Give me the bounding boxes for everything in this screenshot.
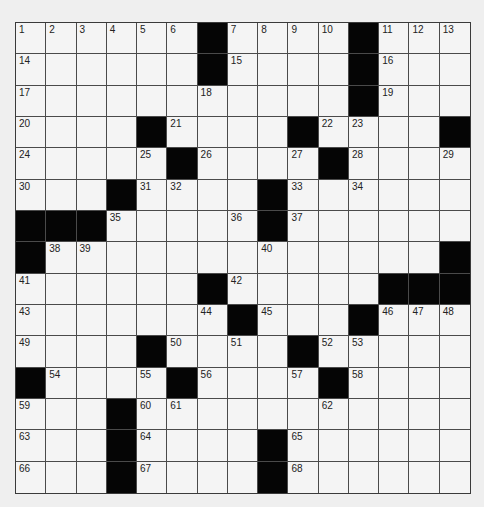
grid-cell[interactable]: 26 [198,148,228,179]
grid-cell[interactable]: 45 [258,305,288,336]
grid-cell[interactable] [198,399,228,430]
grid-cell[interactable] [77,54,107,85]
grid-cell[interactable]: 5 [137,23,167,54]
grid-cell[interactable] [107,117,137,148]
grid-cell[interactable]: 13 [440,23,470,54]
grid-cell[interactable] [137,242,167,273]
grid-cell[interactable] [319,54,349,85]
grid-cell[interactable] [228,399,258,430]
grid-cell[interactable] [198,430,228,461]
grid-cell[interactable] [107,368,137,399]
grid-cell[interactable] [258,86,288,117]
grid-cell[interactable]: 50 [167,336,197,367]
grid-cell[interactable]: 23 [349,117,379,148]
grid-cell[interactable]: 27 [288,148,318,179]
grid-cell[interactable]: 16 [379,54,409,85]
grid-cell[interactable] [440,86,470,117]
grid-cell[interactable] [167,211,197,242]
grid-cell[interactable] [46,54,76,85]
grid-cell[interactable]: 64 [137,430,167,461]
grid-cell[interactable]: 18 [198,86,228,117]
grid-cell[interactable] [409,86,439,117]
grid-cell[interactable] [46,399,76,430]
grid-cell[interactable] [440,368,470,399]
grid-cell[interactable]: 55 [137,368,167,399]
grid-cell[interactable] [409,117,439,148]
grid-cell[interactable] [288,305,318,336]
grid-cell[interactable]: 25 [137,148,167,179]
grid-cell[interactable] [107,242,137,273]
grid-cell[interactable] [46,180,76,211]
grid-cell[interactable] [167,54,197,85]
grid-cell[interactable] [379,180,409,211]
grid-cell[interactable] [288,274,318,305]
grid-cell[interactable] [288,399,318,430]
grid-cell[interactable]: 58 [349,368,379,399]
grid-cell[interactable] [258,368,288,399]
grid-cell[interactable] [137,211,167,242]
grid-cell[interactable]: 21 [167,117,197,148]
grid-cell[interactable] [107,86,137,117]
grid-cell[interactable] [77,274,107,305]
grid-cell[interactable] [167,462,197,493]
grid-cell[interactable]: 46 [379,305,409,336]
grid-cell[interactable] [107,148,137,179]
grid-cell[interactable] [440,211,470,242]
grid-cell[interactable] [349,242,379,273]
grid-cell[interactable] [288,86,318,117]
grid-cell[interactable]: 2 [46,23,76,54]
grid-cell[interactable]: 28 [349,148,379,179]
grid-cell[interactable]: 6 [167,23,197,54]
grid-cell[interactable] [379,399,409,430]
grid-cell[interactable] [77,305,107,336]
grid-cell[interactable] [167,305,197,336]
grid-cell[interactable] [46,336,76,367]
grid-cell[interactable] [319,180,349,211]
grid-cell[interactable] [379,211,409,242]
grid-cell[interactable] [379,430,409,461]
grid-cell[interactable]: 31 [137,180,167,211]
grid-cell[interactable] [440,180,470,211]
grid-cell[interactable] [409,462,439,493]
grid-cell[interactable] [107,336,137,367]
grid-cell[interactable] [77,148,107,179]
grid-cell[interactable] [349,462,379,493]
grid-cell[interactable]: 3 [77,23,107,54]
grid-cell[interactable] [77,462,107,493]
grid-cell[interactable] [137,86,167,117]
grid-cell[interactable] [228,180,258,211]
grid-cell[interactable] [258,399,288,430]
grid-cell[interactable] [167,242,197,273]
grid-cell[interactable]: 35 [107,211,137,242]
grid-cell[interactable] [409,180,439,211]
grid-cell[interactable] [409,242,439,273]
grid-cell[interactable] [77,86,107,117]
grid-cell[interactable]: 37 [288,211,318,242]
grid-cell[interactable]: 11 [379,23,409,54]
grid-cell[interactable]: 39 [77,242,107,273]
grid-cell[interactable] [167,274,197,305]
grid-cell[interactable] [107,305,137,336]
grid-cell[interactable] [258,336,288,367]
grid-cell[interactable] [258,117,288,148]
grid-cell[interactable]: 9 [288,23,318,54]
grid-cell[interactable]: 38 [46,242,76,273]
grid-cell[interactable] [349,399,379,430]
grid-cell[interactable]: 56 [198,368,228,399]
grid-cell[interactable]: 8 [258,23,288,54]
grid-cell[interactable] [319,211,349,242]
grid-cell[interactable] [198,211,228,242]
grid-cell[interactable] [228,430,258,461]
grid-cell[interactable]: 17 [16,86,46,117]
grid-cell[interactable] [46,274,76,305]
grid-cell[interactable] [77,368,107,399]
grid-cell[interactable] [77,399,107,430]
grid-cell[interactable] [319,430,349,461]
grid-cell[interactable]: 68 [288,462,318,493]
grid-cell[interactable] [77,180,107,211]
grid-cell[interactable]: 14 [16,54,46,85]
grid-cell[interactable] [228,368,258,399]
grid-cell[interactable] [46,462,76,493]
grid-cell[interactable] [46,86,76,117]
grid-cell[interactable]: 61 [167,399,197,430]
